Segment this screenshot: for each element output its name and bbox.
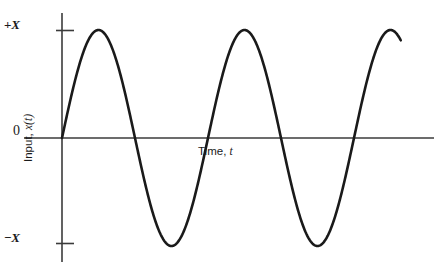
y-tick-symbol-negative: X — [11, 230, 20, 245]
y-axis-title-prefix: Input, — [22, 130, 34, 162]
y-origin-label: 0 — [13, 124, 20, 138]
x-axis-title-variable: t — [230, 145, 233, 157]
y-tick-symbol-positive: X — [11, 17, 20, 32]
x-axis-title: Time, t — [198, 145, 233, 157]
plot-area — [0, 0, 448, 272]
y-tick-label-negative: −X — [4, 231, 20, 244]
y-axis-title: Input, x(t) — [22, 78, 34, 198]
sine-wave-figure: +X −X 0 Input, x(t) Time, t — [0, 0, 448, 272]
x-axis-title-prefix: Time, — [198, 145, 230, 157]
y-axis-title-variable: x(t) — [22, 114, 34, 130]
y-tick-label-positive: +X — [4, 18, 20, 31]
